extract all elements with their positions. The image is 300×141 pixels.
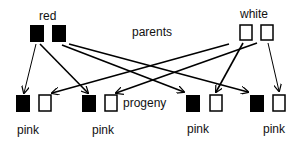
arrow-white1-to-p3 xyxy=(216,43,243,92)
progeny-2-red xyxy=(82,95,96,112)
progeny-1-red xyxy=(16,95,30,112)
progeny-4-white xyxy=(273,95,285,111)
progeny-3-red xyxy=(186,95,200,112)
label-red: red xyxy=(39,10,56,22)
progeny-4-red xyxy=(250,95,264,112)
progeny-2-white xyxy=(105,95,117,111)
progeny-1-white xyxy=(39,95,51,111)
arrow-red1-to-p1 xyxy=(24,44,36,93)
parent-white-allele-2 xyxy=(261,25,273,40)
label-parents: parents xyxy=(132,26,172,38)
arrow-white2-to-p2 xyxy=(116,43,257,93)
parent-red-allele-1 xyxy=(30,25,44,42)
progeny-3-white xyxy=(210,95,222,111)
label-white: white xyxy=(240,8,268,20)
label-progeny: progeny xyxy=(123,97,166,109)
label-pink-3: pink xyxy=(187,123,209,135)
label-pink-2: pink xyxy=(92,124,114,136)
arrow-white2-to-p4 xyxy=(268,43,279,91)
parent-red-allele-2 xyxy=(52,25,66,42)
parent-white-allele-1 xyxy=(240,25,252,40)
label-pink-1: pink xyxy=(17,124,39,136)
arrow-red2-to-p4 xyxy=(69,44,248,92)
label-pink-4: pink xyxy=(263,123,285,135)
